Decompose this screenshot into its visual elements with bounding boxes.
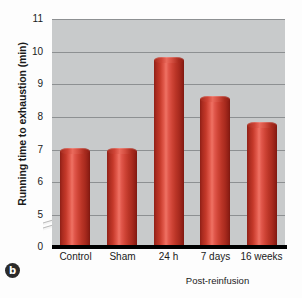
bar-cap [200, 96, 230, 102]
y-tick-label: 11 [21, 14, 43, 24]
bar-cap [247, 122, 277, 128]
x-tick-label: 16 weeks [238, 251, 285, 262]
bar [200, 99, 230, 247]
x-axis-baseline [52, 245, 287, 249]
post-reinfusion-bracket: Post-reinfusion [148, 275, 285, 291]
bar [154, 60, 184, 247]
y-tick-label: 8 [21, 112, 43, 122]
bar-cap [154, 57, 184, 63]
bar [60, 151, 90, 247]
y-tick-label: 9 [21, 79, 43, 89]
bars-layer [52, 19, 285, 247]
panel-letter-badge: b [5, 263, 20, 278]
x-tick-label: Sham [99, 251, 146, 262]
x-tick-label: 7 days [192, 251, 239, 262]
y-tick-label: 5 [21, 210, 43, 220]
bar [107, 151, 137, 247]
bar-cap [60, 148, 90, 154]
y-tick-label: 0 [21, 242, 43, 252]
x-tick-label: Control [52, 251, 99, 262]
y-tick-label: 6 [21, 177, 43, 187]
y-axis-tick-labels: 1110987650 [21, 0, 43, 298]
figure-panel-b: Running time to exhaustion (min) 1110987… [0, 0, 302, 298]
y-tick-label: 10 [21, 47, 43, 57]
bar-cap [107, 148, 137, 154]
y-tick-label: 7 [21, 145, 43, 155]
x-tick-label: 24 h [145, 251, 192, 262]
x-axis-tick-labels: ControlSham24 h7 days16 weeks [52, 251, 285, 267]
bar [247, 125, 277, 247]
post-reinfusion-label: Post-reinfusion [148, 275, 287, 286]
